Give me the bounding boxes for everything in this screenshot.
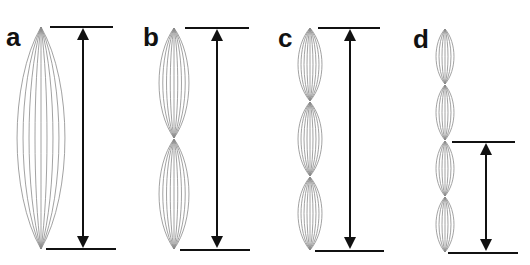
panel-d: d <box>413 24 518 253</box>
arrow-down-icon <box>77 236 89 248</box>
arrow-up-icon <box>480 143 492 155</box>
arrow-down-icon <box>211 236 223 248</box>
panel-b: b <box>143 22 250 250</box>
wave-loop <box>298 28 322 101</box>
panel-label: c <box>278 23 292 53</box>
wave-loop <box>17 27 65 249</box>
arrow-down-icon <box>344 237 356 249</box>
panel-a: a <box>6 22 116 249</box>
wave-loop <box>298 177 322 250</box>
panel-label: a <box>6 22 21 52</box>
panel-label: d <box>413 24 429 54</box>
wave-loop <box>436 29 454 84</box>
wavelength-double-arrow <box>77 28 89 248</box>
wave-loop <box>159 28 189 138</box>
wave-loop <box>298 102 322 176</box>
wave-loop <box>436 141 454 196</box>
arrow-up-icon <box>211 29 223 41</box>
panel-label: b <box>143 22 159 52</box>
arrow-up-icon <box>77 28 89 40</box>
wave-loop <box>436 197 454 252</box>
panel-c: c <box>278 23 384 251</box>
wave-loop <box>159 139 189 249</box>
wavelength-double-arrow <box>344 29 356 249</box>
arrow-down-icon <box>480 239 492 251</box>
wavelength-double-arrow <box>211 29 223 248</box>
wavelength-double-arrow <box>480 143 492 251</box>
standing-wave-harmonics-diagram: abcd <box>0 0 530 265</box>
wave-loop <box>436 85 454 140</box>
arrow-up-icon <box>344 29 356 41</box>
